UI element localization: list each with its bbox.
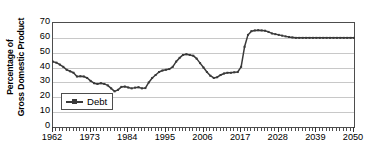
data-point (83, 75, 85, 77)
x-tick-1992 (155, 127, 156, 131)
data-point (103, 83, 105, 85)
x-tick-2014 (230, 127, 231, 131)
data-point (216, 76, 218, 78)
x-tick-1971 (83, 127, 84, 131)
x-tick-2012 (223, 127, 224, 131)
x-tick-2035 (302, 127, 303, 131)
x-tick-2001 (185, 127, 186, 131)
x-tick-2018 (244, 127, 245, 131)
x-tick-2020 (250, 127, 251, 131)
x-tick-2022 (257, 127, 258, 131)
x-tick-2029 (281, 127, 282, 131)
data-point (298, 37, 300, 39)
x-tick-2016 (237, 127, 238, 131)
data-point (138, 86, 140, 88)
x-tick-2010 (216, 127, 217, 131)
data-point (312, 37, 314, 39)
data-point (182, 54, 184, 56)
x-tick-2019 (247, 127, 248, 131)
x-tick-1970 (79, 127, 80, 131)
data-point (230, 72, 232, 74)
x-tick-2038 (312, 127, 313, 131)
data-point (114, 90, 116, 92)
x-tick-2021 (254, 127, 255, 131)
data-point (326, 37, 328, 39)
data-point (79, 75, 81, 77)
legend-marker-debt (66, 97, 83, 106)
data-point (199, 62, 201, 64)
data-point (233, 71, 235, 73)
data-point (271, 32, 273, 34)
x-tick-1988 (141, 127, 142, 131)
data-point (117, 89, 119, 91)
x-tick-1964 (59, 127, 60, 131)
data-point (66, 69, 68, 71)
x-tick-2045 (336, 127, 337, 131)
x-tick-2037 (309, 127, 310, 131)
data-point (254, 29, 256, 31)
data-point (261, 29, 263, 31)
x-tick-2031 (288, 127, 289, 131)
data-point (175, 61, 177, 63)
x-tick-2024 (264, 127, 265, 131)
x-tick-1996 (168, 127, 169, 131)
x-tick-2013 (226, 127, 227, 131)
data-point (192, 55, 194, 57)
data-point (203, 67, 205, 69)
data-point (209, 75, 211, 77)
data-point (148, 81, 150, 83)
x-tick-2030 (285, 127, 286, 131)
x-axis-tick-1995: 1995 (155, 132, 175, 143)
data-point (124, 86, 126, 88)
chart-legend: Debt (61, 93, 113, 110)
x-axis-tick-2039: 2039 (305, 132, 325, 143)
data-point (120, 86, 122, 88)
data-point (141, 87, 143, 89)
x-tick-2023 (261, 127, 262, 131)
y-axis-title-text: Percentage of Gross Domestic Product (5, 18, 26, 117)
x-tick-1985 (131, 127, 132, 131)
data-point (127, 86, 129, 88)
data-point (339, 37, 341, 39)
data-point (278, 34, 280, 36)
data-point (353, 37, 355, 39)
data-point (332, 37, 334, 39)
x-tick-2047 (343, 127, 344, 131)
x-tick-2015 (233, 127, 234, 131)
x-tick-2041 (322, 127, 323, 131)
data-point (346, 37, 348, 39)
x-tick-1972 (86, 127, 87, 131)
x-tick-1997 (172, 127, 173, 131)
x-tick-2044 (332, 127, 333, 131)
x-tick-1979 (110, 127, 111, 131)
x-tick-1993 (158, 127, 159, 131)
x-tick-1998 (175, 127, 176, 131)
x-tick-1994 (161, 127, 162, 131)
x-tick-1966 (66, 127, 67, 131)
y-axis-tick-70: 70 (28, 17, 50, 26)
data-point (172, 66, 174, 68)
x-tick-1990 (148, 127, 149, 131)
y-axis-title-line-2: Gross Domestic Product (15, 18, 26, 117)
x-axis-tick-2017: 2017 (230, 132, 250, 143)
y-axis-tick-labels: 706050403020100 (28, 0, 50, 134)
x-tick-2009 (213, 127, 214, 131)
x-tick-1967 (69, 127, 70, 131)
x-axis-tick-labels: 196219731984199520062017202820392050 (0, 132, 367, 146)
y-axis-tick-30: 30 (28, 77, 50, 86)
data-point (220, 74, 222, 76)
x-axis-tick-2050: 2050 (343, 132, 363, 143)
x-tick-1965 (62, 127, 63, 131)
data-point (52, 61, 54, 63)
data-point (237, 71, 239, 73)
data-point (257, 29, 259, 31)
x-tick-1977 (103, 127, 104, 131)
x-axis-tick-1962: 1962 (42, 132, 62, 143)
plot-inner (53, 23, 354, 127)
x-axis-tick-2028: 2028 (268, 132, 288, 143)
data-point (319, 37, 321, 39)
y-axis-tick-40: 40 (28, 62, 50, 71)
data-point (206, 71, 208, 73)
data-point (131, 87, 133, 89)
data-point (309, 37, 311, 39)
